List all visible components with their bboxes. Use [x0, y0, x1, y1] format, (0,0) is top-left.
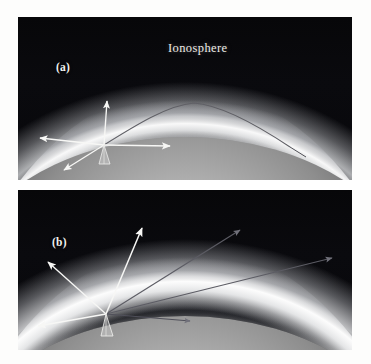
ray-b-horizontal-left: [38, 314, 106, 326]
ray-a-upward: [104, 101, 107, 145]
escaping-ray-1-b: [106, 230, 240, 314]
grazing-ray-b: [106, 314, 190, 321]
refracted-ray-a-tail: [290, 147, 306, 157]
ray-overlay-a: [18, 17, 352, 180]
ray-b-upper-left: [48, 262, 106, 314]
escaping-ray-2-b: [106, 258, 332, 314]
refracted-ray-a: [104, 103, 290, 147]
transmitter-antenna-b: [101, 314, 113, 336]
ray-a-lower-left: [64, 145, 104, 170]
ray-a-horizontal-right: [104, 145, 170, 146]
panel-separator: [0, 180, 371, 190]
ray-a-upper-left: [40, 138, 104, 145]
ionosphere-propagation-figure: Ionosphere (a): [0, 0, 371, 364]
panel-a: Ionosphere (a): [18, 17, 352, 180]
ray-b-steep-upward: [106, 228, 142, 314]
panel-b: (b): [18, 190, 352, 350]
ray-overlay-b: [18, 190, 352, 350]
